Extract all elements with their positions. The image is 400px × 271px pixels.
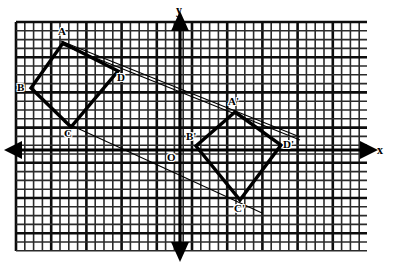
vertex-label-a: A <box>58 26 66 37</box>
y-axis-label: y <box>176 4 182 16</box>
x-axis-label: x <box>377 144 383 156</box>
figure-canvas <box>0 0 400 271</box>
vertex-label-b: B <box>17 82 24 93</box>
x-axis-arrow-left <box>4 141 22 159</box>
vertex-label-a-prime: A' <box>228 96 239 107</box>
vertex-label-b-prime: B' <box>186 131 196 142</box>
vertex-label-d: D <box>117 72 125 83</box>
coordinate-geometry-figure: x y O A B C D A' B' C' D' <box>0 0 400 271</box>
quadrilateral-abcd <box>31 43 118 127</box>
quadrilateral-a-prime-b-prime-c-prime-d-prime <box>196 112 281 200</box>
vertex-label-c: C <box>64 128 72 139</box>
origin-label: O <box>167 152 176 163</box>
vertex-label-c-prime: C' <box>234 203 245 214</box>
x-axis-arrow-right <box>360 141 378 159</box>
vertex-label-d-prime: D' <box>283 139 294 150</box>
y-axis-arrow-down <box>171 242 189 262</box>
